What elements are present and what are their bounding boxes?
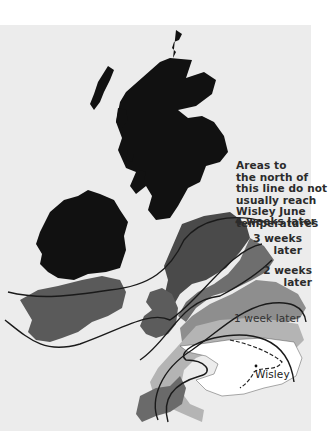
- zone-wisley-region: [180, 338, 302, 396]
- north-line-text-1: Areas to: [236, 160, 328, 172]
- zone-wales: [140, 288, 178, 338]
- four-weeks-label: 4 weeks later: [235, 216, 316, 228]
- three-weeks-label: 3 weeks later: [250, 233, 302, 256]
- two-weeks-text-2: later: [262, 277, 312, 289]
- wisley-label: Wisley: [255, 369, 290, 381]
- outer-hebrides: [90, 66, 114, 110]
- three-weeks-text-2: later: [250, 245, 302, 257]
- two-weeks-label: 2 weeks later: [262, 265, 312, 288]
- zone-north-scotland: [116, 30, 228, 220]
- north-line-text-3: this line do not: [236, 183, 328, 195]
- zone-north-ireland: [36, 190, 128, 280]
- two-weeks-text-1: 2 weeks: [262, 265, 312, 277]
- one-week-label: 1 week later: [234, 313, 300, 325]
- three-weeks-text-1: 3 weeks: [250, 233, 302, 245]
- wisley-marker: [255, 365, 258, 368]
